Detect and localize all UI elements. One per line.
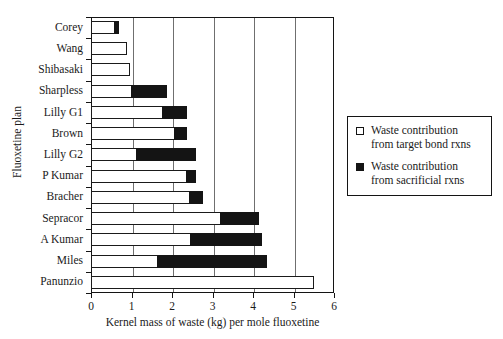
bar-segment-target-bond — [91, 212, 221, 225]
y-tick — [86, 229, 91, 230]
x-tick — [91, 293, 92, 298]
bar-row — [91, 272, 334, 293]
bar-brown — [91, 127, 187, 140]
y-tick-label-brown: Brown — [52, 127, 83, 139]
bar-bracher — [91, 191, 203, 204]
bar-row — [91, 17, 334, 38]
bars-layer — [91, 17, 334, 293]
bar-segment-target-bond — [91, 127, 175, 140]
bar-segment-target-bond — [91, 255, 158, 268]
y-tick — [86, 102, 91, 103]
bar-row — [91, 229, 334, 250]
bar-row — [91, 166, 334, 187]
y-tick — [86, 123, 91, 124]
bar-row — [91, 208, 334, 229]
bar-row — [91, 123, 334, 144]
legend-label-target-bond: Waste contribution from target bond rxns — [371, 124, 483, 151]
y-tick — [86, 17, 91, 18]
y-tick — [86, 166, 91, 167]
bar-segment-target-bond — [91, 106, 163, 119]
bar-segment-target-bond — [91, 63, 130, 76]
y-tick-label-sepracor: Sepracor — [42, 212, 83, 224]
bar-p-kumar — [91, 170, 196, 183]
x-tick — [253, 293, 254, 298]
y-tick-label-p-kumar: P Kumar — [42, 169, 83, 181]
bar-miles — [91, 255, 267, 268]
bar-sepracor — [91, 212, 259, 225]
bar-row — [91, 59, 334, 80]
bar-segment-target-bond — [91, 276, 314, 289]
y-tick-label-miles: Miles — [57, 254, 83, 266]
bar-segment-target-bond — [91, 21, 115, 34]
chart-figure: CoreyWangShibasakiSharplessLilly G1Brown… — [0, 0, 503, 339]
bar-segment-sacrificial — [174, 127, 187, 140]
bar-wang — [91, 42, 127, 55]
bar-a-kumar — [91, 233, 262, 246]
y-tick-label-wang: Wang — [56, 42, 83, 54]
x-tick — [294, 293, 295, 298]
y-tick — [86, 144, 91, 145]
y-tick — [86, 81, 91, 82]
bar-segment-target-bond — [91, 170, 187, 183]
y-tick — [86, 187, 91, 188]
bar-segment-sacrificial — [186, 170, 196, 183]
bar-lilly-g1 — [91, 106, 187, 119]
x-tick — [172, 293, 173, 298]
y-tick-label-corey: Corey — [55, 21, 83, 33]
bar-segment-target-bond — [91, 42, 127, 55]
x-tick-label-1: 1 — [122, 300, 142, 313]
y-tick-label-bracher: Bracher — [47, 190, 83, 202]
bar-row — [91, 38, 334, 59]
bar-segment-target-bond — [91, 148, 137, 161]
bar-segment-sacrificial — [190, 233, 262, 246]
x-tick-label-4: 4 — [243, 300, 263, 313]
y-tick-label-a-kumar: A Kumar — [41, 233, 83, 245]
x-tick-label-0: 0 — [81, 300, 101, 313]
y-tick — [86, 38, 91, 39]
y-tick-label-lilly-g2: Lilly G2 — [44, 148, 83, 160]
bar-segment-target-bond — [91, 233, 191, 246]
legend-entry-target-bond: Waste contribution from target bond rxns — [356, 124, 483, 151]
y-tick — [86, 251, 91, 252]
x-tick-label-6: 6 — [324, 300, 344, 313]
y-tick — [86, 59, 91, 60]
bar-row — [91, 102, 334, 123]
bar-corey — [91, 21, 119, 34]
y-tick-label-shibasaki: Shibasaki — [38, 63, 83, 75]
x-tick — [334, 293, 335, 298]
bar-shibasaki — [91, 63, 130, 76]
x-axis-title: Kernel mass of waste (kg) per mole fluox… — [91, 316, 334, 328]
bar-sharpless — [91, 85, 167, 98]
bar-panunzio — [91, 276, 314, 289]
legend-entry-sacrificial: Waste contribution from sacrificial rxns — [356, 160, 483, 187]
open-square-icon — [356, 127, 364, 135]
x-tick-label-2: 2 — [162, 300, 182, 313]
x-tick-label-5: 5 — [284, 300, 304, 313]
bar-row — [91, 251, 334, 272]
bar-segment-sacrificial — [131, 85, 168, 98]
filled-square-icon — [356, 163, 364, 171]
y-tick — [86, 208, 91, 209]
bar-segment-sacrificial — [189, 191, 203, 204]
bar-segment-sacrificial — [114, 21, 118, 34]
y-tick-label-panunzio: Panunzio — [40, 275, 83, 287]
bar-segment-sacrificial — [136, 148, 196, 161]
x-tick — [213, 293, 214, 298]
bar-row — [91, 81, 334, 102]
bar-segment-target-bond — [91, 85, 132, 98]
bar-lilly-g2 — [91, 148, 196, 161]
bar-segment-sacrificial — [157, 255, 267, 268]
bar-segment-target-bond — [91, 191, 190, 204]
y-tick — [86, 272, 91, 273]
x-tick-label-3: 3 — [203, 300, 223, 313]
y-axis-title: Fluoxetine plan — [11, 82, 23, 202]
y-tick-label-sharpless: Sharpless — [39, 84, 83, 96]
bar-row — [91, 187, 334, 208]
bar-segment-sacrificial — [220, 212, 259, 225]
y-tick-label-lilly-g1: Lilly G1 — [44, 106, 83, 118]
x-tick — [132, 293, 133, 298]
chart-legend: Waste contribution from target bond rxns… — [347, 116, 492, 196]
bar-segment-sacrificial — [162, 106, 187, 119]
bar-row — [91, 144, 334, 165]
legend-label-sacrificial: Waste contribution from sacrificial rxns — [371, 160, 483, 187]
